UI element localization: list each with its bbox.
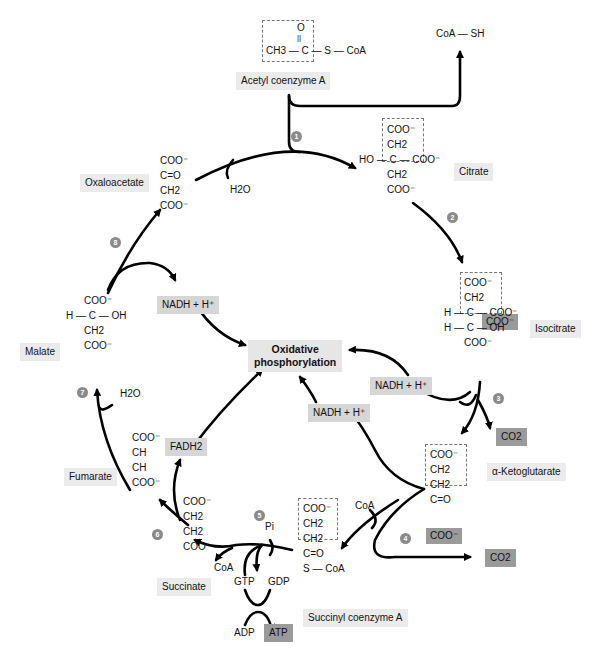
succinate-structure: COO⁻CH2CH2COO⁻ xyxy=(183,494,211,554)
alpha-ketoglutarate-carboxyl-highlight: COO⁻ xyxy=(426,528,462,544)
oxaloacetate-label: Oxaloacetate xyxy=(80,174,149,192)
isocitrate-label: Isocitrate xyxy=(530,320,581,338)
oxaloacetate-c4: COO⁻ xyxy=(160,200,188,211)
succinyl-coa-c5: S — CoA xyxy=(303,563,345,574)
citrate-c3: HO — C — COO⁻ xyxy=(359,154,440,165)
citric-acid-cycle-diagram: O || CH3 — C — S — CoA Acetyl coenzyme A… xyxy=(0,0,595,657)
akg-c4: C=O xyxy=(430,494,451,505)
fumarate-c1: COO⁻ xyxy=(132,432,160,443)
fumarate-label: Fumarate xyxy=(64,468,117,486)
oxphos-line1: Oxidative xyxy=(271,343,318,355)
isocitrate-c2: CH2 xyxy=(444,292,484,303)
succinate-c2: CH2 xyxy=(183,511,203,522)
citrate-c5: COO⁻ xyxy=(359,184,415,195)
adp-label: ADP xyxy=(234,627,255,639)
isocitrate-c3: H — C — COO⁻ xyxy=(444,307,517,318)
acetyl-coa-label: Acetyl coenzyme A xyxy=(236,72,330,90)
malate-label: Malate xyxy=(20,343,60,361)
acetyl-coa-double-bond: || xyxy=(297,32,301,43)
malate-c1: COO⁻ xyxy=(66,295,112,306)
malate-c4: COO⁻ xyxy=(66,340,112,351)
succinate-c4: COO⁻ xyxy=(183,541,211,552)
succinyl-coa-c1: COO⁻ xyxy=(303,503,331,514)
succinyl-coa-c4: C=O xyxy=(303,548,324,559)
alpha-ketoglutarate-label: α-Ketoglutarate xyxy=(487,463,566,481)
akg-c1: COO⁻ xyxy=(430,449,458,460)
step-8-marker: 8 xyxy=(110,237,121,248)
akg-c2: CH2 xyxy=(430,464,450,475)
succinate-label: Succinate xyxy=(157,578,211,596)
gtp-label: GTP xyxy=(234,576,255,588)
nadh-step3: NADH + H⁺ xyxy=(370,377,432,395)
succinyl-coa-c3: CH2 xyxy=(303,533,323,544)
fumarate-c3: CH xyxy=(132,462,146,473)
isocitrate-c4: H — C — OH xyxy=(444,322,505,333)
pi-cofactor: Pi xyxy=(265,521,274,533)
nadh-step4: NADH + H⁺ xyxy=(308,404,370,422)
coa-step5: CoA xyxy=(214,562,233,574)
fadh2-cofactor: FADH2 xyxy=(165,438,207,456)
gdp-label: GDP xyxy=(268,576,290,588)
succinyl-coa-label: Succinyl coenzyme A xyxy=(303,609,408,627)
step-7-marker: 7 xyxy=(77,387,88,398)
oxaloacetate-structure: COO⁻C=OCH2COO⁻ xyxy=(160,153,188,213)
citrate-c4: CH2 xyxy=(359,169,407,180)
oxaloacetate-c3: CH2 xyxy=(160,185,180,196)
coa-step4: CoA xyxy=(355,500,374,512)
akg-c3: CH2 xyxy=(430,479,450,490)
fumarate-c2: CH xyxy=(132,447,146,458)
step-1-marker: 1 xyxy=(291,131,302,142)
atp-label: ATP xyxy=(264,624,293,642)
step-5-marker: 5 xyxy=(254,510,265,521)
step-3-marker: 3 xyxy=(493,393,504,404)
isocitrate-c5: COO⁻ xyxy=(444,337,492,348)
succinyl-coa-structure: COO⁻CH2CH2C=OS — CoA xyxy=(303,501,345,576)
h2o-step7: H2O xyxy=(120,388,141,400)
h2o-step1: H2O xyxy=(230,184,251,196)
oxidative-phosphorylation-node: Oxidativephosphorylation xyxy=(248,340,342,372)
alpha-ketoglutarate-structure: COO⁻CH2CH2C=O xyxy=(430,447,458,507)
citrate-label: Citrate xyxy=(454,163,493,181)
citrate-c2: CH2 xyxy=(359,139,407,150)
citrate-c1: COO⁻ xyxy=(359,124,415,135)
succinate-c1: COO⁻ xyxy=(183,496,211,507)
co2-step3: CO2 xyxy=(496,428,527,446)
acetyl-coa-structure: CH3 — C — S — CoA xyxy=(266,45,366,56)
step-4-marker: 4 xyxy=(400,533,411,544)
nadh-step8: NADH + H⁺ xyxy=(157,296,219,314)
fumarate-c4: COO⁻ xyxy=(132,477,160,488)
fumarate-structure: COO⁻CHCHCOO⁻ xyxy=(132,430,160,490)
step-2-marker: 2 xyxy=(447,212,458,223)
oxphos-line2: phosphorylation xyxy=(254,356,336,368)
coa-sh-product: CoA — SH xyxy=(436,28,484,40)
oxaloacetate-c1: COO⁻ xyxy=(160,155,188,166)
citrate-structure: COO⁻CH2HO — C — COO⁻CH2COO⁻ xyxy=(359,122,440,197)
succinate-c3: CH2 xyxy=(183,526,203,537)
step-6-marker: 6 xyxy=(152,529,163,540)
malate-c3: CH2 xyxy=(66,325,104,336)
malate-structure: COO⁻H — C — OHCH2COO⁻ xyxy=(66,293,127,353)
oxaloacetate-c2: C=O xyxy=(160,170,181,181)
isocitrate-c1: COO⁻ xyxy=(444,277,492,288)
malate-c2: H — C — OH xyxy=(66,310,127,321)
succinyl-coa-c2: CH2 xyxy=(303,518,323,529)
isocitrate-structure: COO⁻CH2H — C — COO⁻H — C — OHCOO⁻ xyxy=(444,275,517,350)
co2-step4: CO2 xyxy=(485,549,516,567)
